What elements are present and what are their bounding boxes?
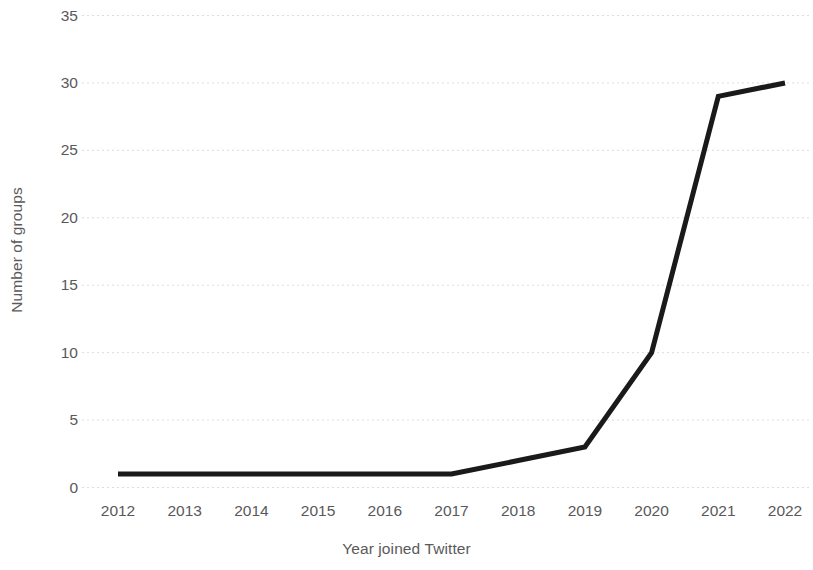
y-axis-title-text: Number of groups [8, 187, 26, 313]
chart-figure: 05101520253035 2012201320142015201620172… [0, 0, 813, 570]
x-axis-title-text: Year joined Twitter [342, 540, 471, 557]
x-tick-label: 2016 [368, 503, 402, 519]
x-tick-label: 2021 [701, 503, 735, 519]
x-tick-label: 2015 [301, 503, 335, 519]
x-tick-label: 2019 [568, 503, 602, 519]
y-axis-title: Number of groups [0, 0, 34, 500]
x-tick-label: 2012 [101, 503, 135, 519]
x-tick-label: 2013 [167, 503, 201, 519]
x-tick-label: 2020 [634, 503, 668, 519]
x-tick-label: 2018 [501, 503, 535, 519]
x-tick-label: 2022 [768, 503, 802, 519]
x-tick-label: 2017 [434, 503, 468, 519]
x-axis-title: Year joined Twitter [0, 540, 813, 558]
x-tick-label: 2014 [234, 503, 268, 519]
x-axis-tick-labels: 2012201320142015201620172018201920202021… [0, 0, 813, 570]
